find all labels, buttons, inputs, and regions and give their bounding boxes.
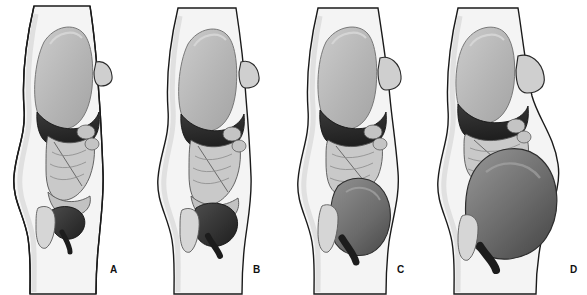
gravid-uterus-d (466, 149, 557, 270)
panel-b: B (146, 0, 288, 295)
breast-a (94, 62, 112, 86)
pregnancy-stages-figure: A (0, 0, 587, 295)
panel-label-c: C (397, 265, 404, 275)
panel-label-a: A (110, 265, 117, 275)
lung-thorax-c (318, 27, 377, 130)
lung-thorax-a (35, 27, 93, 130)
breast-c (378, 57, 401, 90)
panel-d: D (428, 0, 587, 295)
lung-thorax-b (179, 29, 237, 132)
panel-label-b: B (253, 265, 260, 275)
panel-label-d: D (570, 265, 577, 275)
breast-d (516, 55, 544, 93)
panel-c: C (288, 0, 428, 295)
breast-b (239, 61, 259, 88)
panel-a: A (0, 0, 146, 295)
